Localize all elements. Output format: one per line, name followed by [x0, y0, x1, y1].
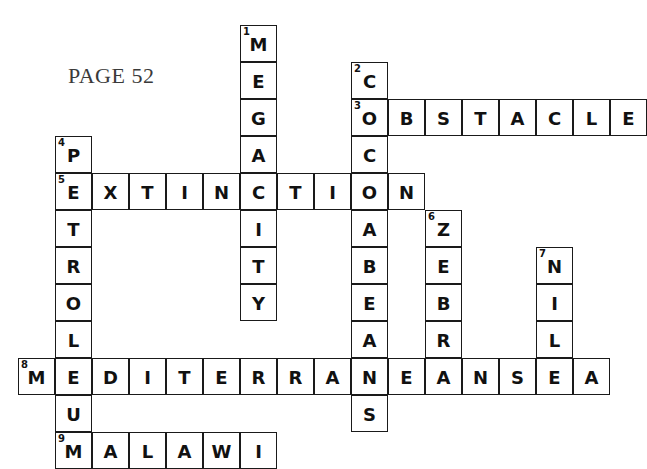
cell-r3c1[interactable]: 4P: [55, 136, 92, 173]
cell-r8c1[interactable]: L: [55, 321, 92, 358]
cell-r6c9[interactable]: B: [351, 247, 388, 284]
cell-r4c4[interactable]: I: [166, 173, 203, 210]
cell-r2c16[interactable]: E: [610, 99, 647, 136]
cell-r11c4[interactable]: A: [166, 432, 203, 469]
cell-letter: R: [426, 322, 461, 357]
cell-r6c1[interactable]: R: [55, 247, 92, 284]
cell-r11c2[interactable]: A: [92, 432, 129, 469]
cell-r7c11[interactable]: B: [425, 284, 462, 321]
cell-r4c1[interactable]: 5E: [55, 173, 92, 210]
cell-letter: I: [315, 174, 350, 209]
cell-letter: M: [241, 26, 276, 61]
cell-r1c6[interactable]: E: [240, 62, 277, 99]
cell-r9c9[interactable]: N: [351, 358, 388, 395]
cell-letter: G: [241, 100, 276, 135]
cell-r4c7[interactable]: T: [277, 173, 314, 210]
cell-letter: R: [56, 248, 91, 283]
cell-r4c5[interactable]: N: [203, 173, 240, 210]
cell-r8c11[interactable]: R: [425, 321, 462, 358]
cell-r9c10[interactable]: E: [388, 358, 425, 395]
cell-r4c3[interactable]: T: [129, 173, 166, 210]
cell-r11c3[interactable]: L: [129, 432, 166, 469]
cell-letter: E: [389, 359, 424, 394]
cell-r9c15[interactable]: A: [573, 358, 610, 395]
cell-r9c2[interactable]: D: [92, 358, 129, 395]
cell-letter: A: [500, 100, 535, 135]
cell-r7c14[interactable]: I: [536, 284, 573, 321]
cell-r4c8[interactable]: I: [314, 173, 351, 210]
cell-letter: Y: [241, 285, 276, 320]
cell-r9c5[interactable]: E: [203, 358, 240, 395]
cell-letter: N: [389, 174, 424, 209]
cell-r9c12[interactable]: N: [462, 358, 499, 395]
cell-letter: T: [56, 211, 91, 246]
cell-r2c6[interactable]: G: [240, 99, 277, 136]
cell-r9c14[interactable]: E: [536, 358, 573, 395]
cell-r3c6[interactable]: A: [240, 136, 277, 173]
cell-r4c6[interactable]: C: [240, 173, 277, 210]
cell-r9c11[interactable]: A: [425, 358, 462, 395]
cell-r11c6[interactable]: I: [240, 432, 277, 469]
cell-r4c2[interactable]: X: [92, 173, 129, 210]
cell-r2c14[interactable]: C: [536, 99, 573, 136]
cell-r9c4[interactable]: T: [166, 358, 203, 395]
cell-r9c7[interactable]: R: [277, 358, 314, 395]
cell-r11c5[interactable]: W: [203, 432, 240, 469]
cell-r6c14[interactable]: 7N: [536, 247, 573, 284]
cell-r10c9[interactable]: S: [351, 395, 388, 432]
cell-letter: L: [537, 322, 572, 357]
cell-letter: I: [241, 433, 276, 468]
cell-r11c1[interactable]: 9M: [55, 432, 92, 469]
cell-letter: P: [56, 137, 91, 172]
cell-letter: T: [463, 100, 498, 135]
cell-r4c10[interactable]: N: [388, 173, 425, 210]
cell-r4c9[interactable]: O: [351, 173, 388, 210]
cell-r2c13[interactable]: A: [499, 99, 536, 136]
cell-letter: T: [241, 248, 276, 283]
cell-letter: L: [130, 433, 165, 468]
cell-letter: O: [56, 285, 91, 320]
cell-letter: S: [426, 100, 461, 135]
cell-r2c10[interactable]: B: [388, 99, 425, 136]
cell-r9c13[interactable]: S: [499, 358, 536, 395]
cell-r9c6[interactable]: R: [240, 358, 277, 395]
cell-letter: S: [500, 359, 535, 394]
cell-r0c6[interactable]: 1M: [240, 25, 277, 62]
cell-r7c9[interactable]: E: [351, 284, 388, 321]
cell-r9c3[interactable]: I: [129, 358, 166, 395]
cell-letter: E: [56, 174, 91, 209]
cell-letter: A: [352, 211, 387, 246]
cell-letter: N: [204, 174, 239, 209]
cell-r10c1[interactable]: U: [55, 395, 92, 432]
cell-r5c1[interactable]: T: [55, 210, 92, 247]
cell-r5c6[interactable]: I: [240, 210, 277, 247]
cell-letter: B: [352, 248, 387, 283]
cell-r8c9[interactable]: A: [351, 321, 388, 358]
cell-r6c11[interactable]: E: [425, 247, 462, 284]
cell-letter: I: [537, 285, 572, 320]
cell-r1c9[interactable]: 2C: [351, 62, 388, 99]
cell-letter: A: [93, 433, 128, 468]
cell-r9c1[interactable]: E: [55, 358, 92, 395]
cell-r9c0[interactable]: 8M: [18, 358, 55, 395]
cell-r5c11[interactable]: 6Z: [425, 210, 462, 247]
cell-letter: N: [352, 359, 387, 394]
cell-letter: I: [167, 174, 202, 209]
cell-r2c12[interactable]: T: [462, 99, 499, 136]
cell-letter: E: [241, 63, 276, 98]
cell-r2c9[interactable]: 3O: [351, 99, 388, 136]
cell-r3c9[interactable]: C: [351, 136, 388, 173]
cell-r6c6[interactable]: T: [240, 247, 277, 284]
cell-r8c14[interactable]: L: [536, 321, 573, 358]
cell-letter: T: [130, 174, 165, 209]
cell-r7c6[interactable]: Y: [240, 284, 277, 321]
cell-r9c8[interactable]: A: [314, 358, 351, 395]
cell-r2c11[interactable]: S: [425, 99, 462, 136]
cell-letter: B: [389, 100, 424, 135]
cell-r2c15[interactable]: L: [573, 99, 610, 136]
cell-r7c1[interactable]: O: [55, 284, 92, 321]
cell-r5c9[interactable]: A: [351, 210, 388, 247]
cell-letter: M: [56, 433, 91, 468]
cell-letter: L: [574, 100, 609, 135]
page-label: PAGE 52: [68, 63, 154, 89]
